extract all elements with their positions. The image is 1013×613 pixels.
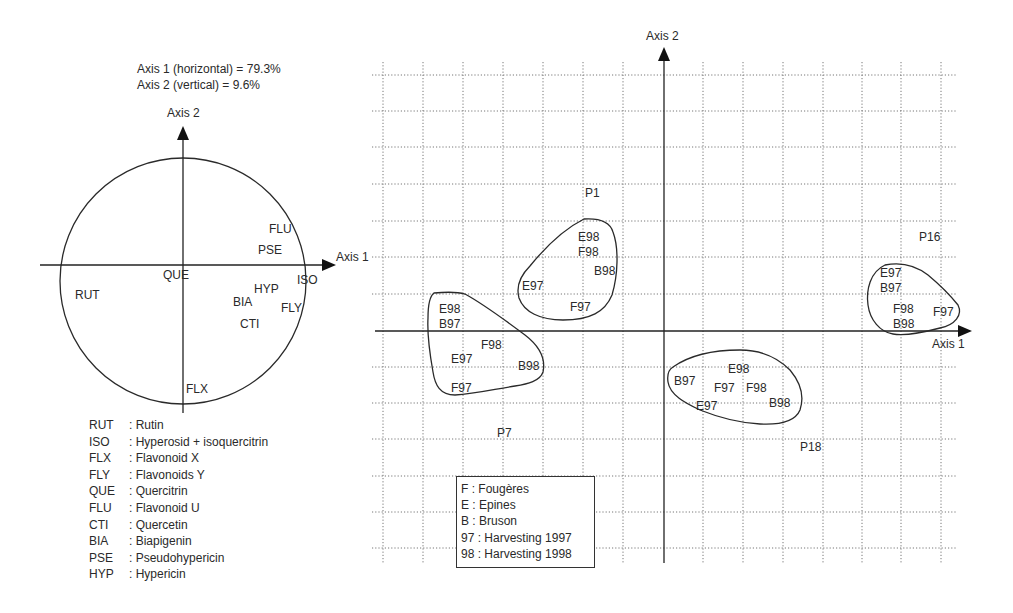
sample-label: F98 — [746, 381, 767, 396]
sample-axis1-label: Axis 1 — [932, 337, 965, 352]
circle-axis2-arrow-icon — [177, 126, 189, 140]
variance-axis2: Axis 2 (vertical) = 9.6% — [137, 78, 260, 93]
legend-row: BIA: Biapigenin — [89, 533, 268, 550]
sample-axis2-label: Axis 2 — [646, 29, 679, 44]
legend-entry: F : Fougères — [461, 481, 594, 497]
var-label-hyp: HYP — [254, 282, 279, 297]
sample-label: F97 — [451, 381, 472, 396]
sample-label: B98 — [594, 264, 615, 279]
sample-label: B97 — [674, 374, 695, 389]
legend-entry: 98 : Harvesting 1998 — [461, 546, 594, 562]
sample-label-p1: P1 — [585, 186, 600, 201]
legend-row: RUT: Rutin — [89, 417, 268, 434]
sample-label: F98 — [578, 245, 599, 260]
legend-entry: E : Epines — [461, 497, 594, 513]
sample-label-p7: P7 — [497, 426, 512, 441]
sample-label: B98 — [518, 359, 539, 374]
variable-legend: RUT: Rutin ISO: Hyperosid + isoquercitri… — [89, 417, 268, 583]
sample-label: E98 — [578, 230, 599, 245]
sample-label: E98 — [439, 302, 460, 317]
legend-row: CTI: Quercetin — [89, 517, 268, 534]
sample-label: F97 — [570, 300, 591, 315]
legend-entry: 97 : Harvesting 1997 — [461, 530, 594, 546]
var-label-fly: FLY — [281, 301, 302, 316]
sample-label: E97 — [451, 352, 472, 367]
var-label-flx: FLX — [186, 382, 208, 397]
sample-label: F97 — [714, 381, 735, 396]
sample-label-p18: P18 — [800, 440, 821, 455]
cluster-outlines — [428, 219, 960, 424]
sample-label: E97 — [696, 399, 717, 414]
sample-label: B98 — [769, 396, 790, 411]
sample-label: E98 — [728, 362, 749, 377]
legend-row: FLX: Flavonoid X — [89, 450, 268, 467]
sample-label: B97 — [880, 281, 901, 296]
legend-row: FLY: Flavonoids Y — [89, 467, 268, 484]
sample-label: F98 — [893, 302, 914, 317]
var-label-cti: CTI — [240, 317, 259, 332]
axis2-arrow-icon — [658, 47, 670, 61]
sample-label: B98 — [893, 317, 914, 332]
axis1-arrow-icon — [958, 325, 972, 337]
var-label-pse: PSE — [258, 243, 282, 258]
circle-axis1-label: Axis 1 — [336, 250, 369, 265]
var-label-iso: ISO — [297, 273, 318, 288]
legend-row: HYP: Hypericin — [89, 566, 268, 583]
legend-row: FLU: Flavonoid U — [89, 500, 268, 517]
var-label-bia: BIA — [233, 295, 252, 310]
legend-row: PSE: Pseudohypericin — [89, 550, 268, 567]
circle-axis2-label: Axis 2 — [167, 106, 200, 121]
legend-row: ISO: Hyperosid + isoquercitrin — [89, 434, 268, 451]
sample-label: B97 — [439, 317, 460, 332]
sample-legend: F : Fougères E : Epines B : Bruson 97 : … — [456, 476, 595, 568]
var-label-rut: RUT — [75, 288, 100, 303]
legend-entry: B : Bruson — [461, 513, 594, 529]
sample-label-p16: P16 — [919, 230, 940, 245]
sample-label: E97 — [880, 266, 901, 281]
sample-label: E97 — [522, 279, 543, 294]
legend-row: QUE: Quercitrin — [89, 483, 268, 500]
var-label-que: QUE — [163, 268, 189, 283]
sample-label: F97 — [933, 305, 954, 320]
circle-axis1-arrow-icon — [322, 259, 336, 271]
variance-axis1: Axis 1 (horizontal) = 79.3% — [137, 62, 281, 77]
var-label-flu: FLU — [269, 222, 292, 237]
sample-label: F98 — [481, 338, 502, 353]
